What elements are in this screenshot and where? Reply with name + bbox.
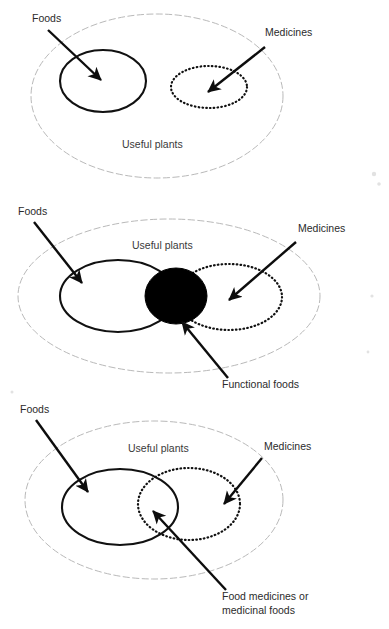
panel-3: Foods Medicines Useful plants Food medic… <box>20 403 311 616</box>
useful-plants-label: Useful plants <box>122 138 183 150</box>
medicines-pointer-arrow <box>208 47 265 92</box>
functional-foods-label: Functional foods <box>222 378 299 390</box>
medicines-label: Medicines <box>298 222 345 234</box>
medicines-label: Medicines <box>265 26 312 38</box>
foods-label: Foods <box>32 12 61 24</box>
medicines-set-outline <box>171 66 247 108</box>
food-medicines-label-line-2: medicinal foods <box>222 604 295 616</box>
speck <box>11 391 14 394</box>
foods-pointer-arrow <box>34 222 82 283</box>
panel-2: Foods Medicines Useful plants Functional… <box>18 205 345 390</box>
functional-foods-intersection <box>145 268 207 324</box>
food-medicines-pointer-arrow <box>153 511 226 590</box>
useful-plants-boundary <box>31 14 283 178</box>
foods-label: Foods <box>18 205 47 217</box>
speck <box>372 172 376 176</box>
panel-1: Foods Medicines Useful plants <box>31 12 312 178</box>
food-medicines-label-line-1: Food medicines or <box>222 590 309 602</box>
useful-plants-label: Useful plants <box>128 442 189 454</box>
foods-pointer-arrow <box>36 420 88 492</box>
foods-label: Foods <box>20 403 49 415</box>
diagram-canvas: Foods Medicines Useful plants Foods Medi… <box>0 0 389 629</box>
medicines-label: Medicines <box>264 440 311 452</box>
speck <box>367 351 370 354</box>
medicines-pointer-arrow <box>224 458 262 504</box>
speck <box>377 182 381 186</box>
speck <box>370 294 373 297</box>
useful-plants-label: Useful plants <box>132 239 193 251</box>
medicines-pointer-arrow <box>229 242 296 300</box>
venn-diagram-figure: Foods Medicines Useful plants Foods Medi… <box>0 0 389 629</box>
foods-pointer-arrow <box>48 30 101 80</box>
foods-set-outline <box>60 50 146 112</box>
